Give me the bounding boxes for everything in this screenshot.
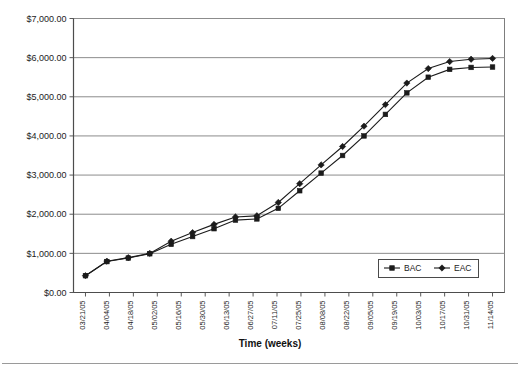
data-point-marker-square (426, 75, 431, 80)
evm-bac-eac-line-chart: $0.00$1,000.00$2,000.00$3,000.00$4,000.0… (0, 0, 520, 374)
series-line-eac (85, 58, 492, 275)
x-tick-label: 10/17/05 (438, 301, 447, 330)
x-tick-label: 06/27/05 (246, 301, 255, 330)
chart-container: $0.00$1,000.00$2,000.00$3,000.00$4,000.0… (0, 0, 520, 374)
legend-label: BAC (404, 263, 421, 273)
data-point-marker-square (276, 206, 281, 211)
x-tick-label: 10/03/05 (414, 301, 423, 330)
y-tick-label: $5,000.00 (26, 92, 66, 102)
y-tick-label: $6,000.00 (26, 53, 66, 63)
x-tick-label: 11/14/05 (486, 301, 495, 330)
y-tick-label: $7,000.00 (26, 14, 66, 24)
data-point-marker-square (490, 65, 495, 70)
data-point-marker-square (447, 67, 452, 72)
x-tick-label: 03/21/05 (78, 301, 87, 330)
y-tick-label: $3,000.00 (26, 170, 66, 180)
data-point-marker-diamond (447, 58, 453, 64)
data-point-marker-square (469, 65, 474, 70)
data-point-marker-diamond (489, 55, 495, 61)
legend-label: EAC (454, 263, 471, 273)
data-point-marker-square (319, 171, 324, 176)
data-series (82, 55, 495, 279)
plot-frame (74, 19, 505, 293)
y-tick-label: $2,000.00 (26, 209, 66, 219)
y-tick-label: $4,000.00 (26, 131, 66, 141)
x-tick-label: 05/16/05 (174, 301, 183, 330)
axis-lines (74, 19, 505, 293)
data-point-marker-diamond (425, 65, 431, 71)
series-line-bac (85, 67, 492, 276)
y-axis-tick-labels: $0.00$1,000.00$2,000.00$3,000.00$4,000.0… (26, 14, 66, 298)
y-tick-label: $1,000.00 (26, 249, 66, 259)
chart-legend[interactable]: BACEAC (379, 260, 479, 278)
series-eac (82, 55, 495, 279)
x-tick-label: 04/18/05 (126, 301, 135, 330)
x-tick-label: 08/22/05 (342, 301, 351, 330)
x-axis-tick-labels: 03/21/0504/04/0504/18/0505/02/0505/16/05… (78, 301, 494, 330)
x-tick-label: 05/30/05 (198, 301, 207, 330)
x-tick-label: 09/19/05 (390, 301, 399, 330)
y-tick-label: $0.00 (44, 288, 67, 298)
x-tick-label: 10/31/05 (462, 301, 471, 330)
x-tick-label: 07/25/05 (294, 301, 303, 330)
data-point-marker-square (297, 188, 302, 193)
x-tick-label: 05/02/05 (150, 301, 159, 330)
data-point-marker-diamond (468, 56, 474, 62)
data-point-marker-square (383, 112, 388, 117)
data-point-marker-square (390, 266, 395, 271)
gridlines (70, 19, 505, 293)
data-point-marker-square (362, 134, 367, 139)
data-point-marker-square (340, 153, 345, 158)
x-tick-label: 04/04/05 (102, 301, 111, 330)
x-tick-label: 06/13/05 (222, 301, 231, 330)
x-axis-title: Time (weeks) (239, 338, 302, 349)
x-tick-label: 09/05/05 (366, 301, 375, 330)
x-tick-label: 08/08/05 (318, 301, 327, 330)
x-tick-label: 07/11/05 (270, 301, 279, 330)
data-point-marker-square (405, 91, 410, 96)
